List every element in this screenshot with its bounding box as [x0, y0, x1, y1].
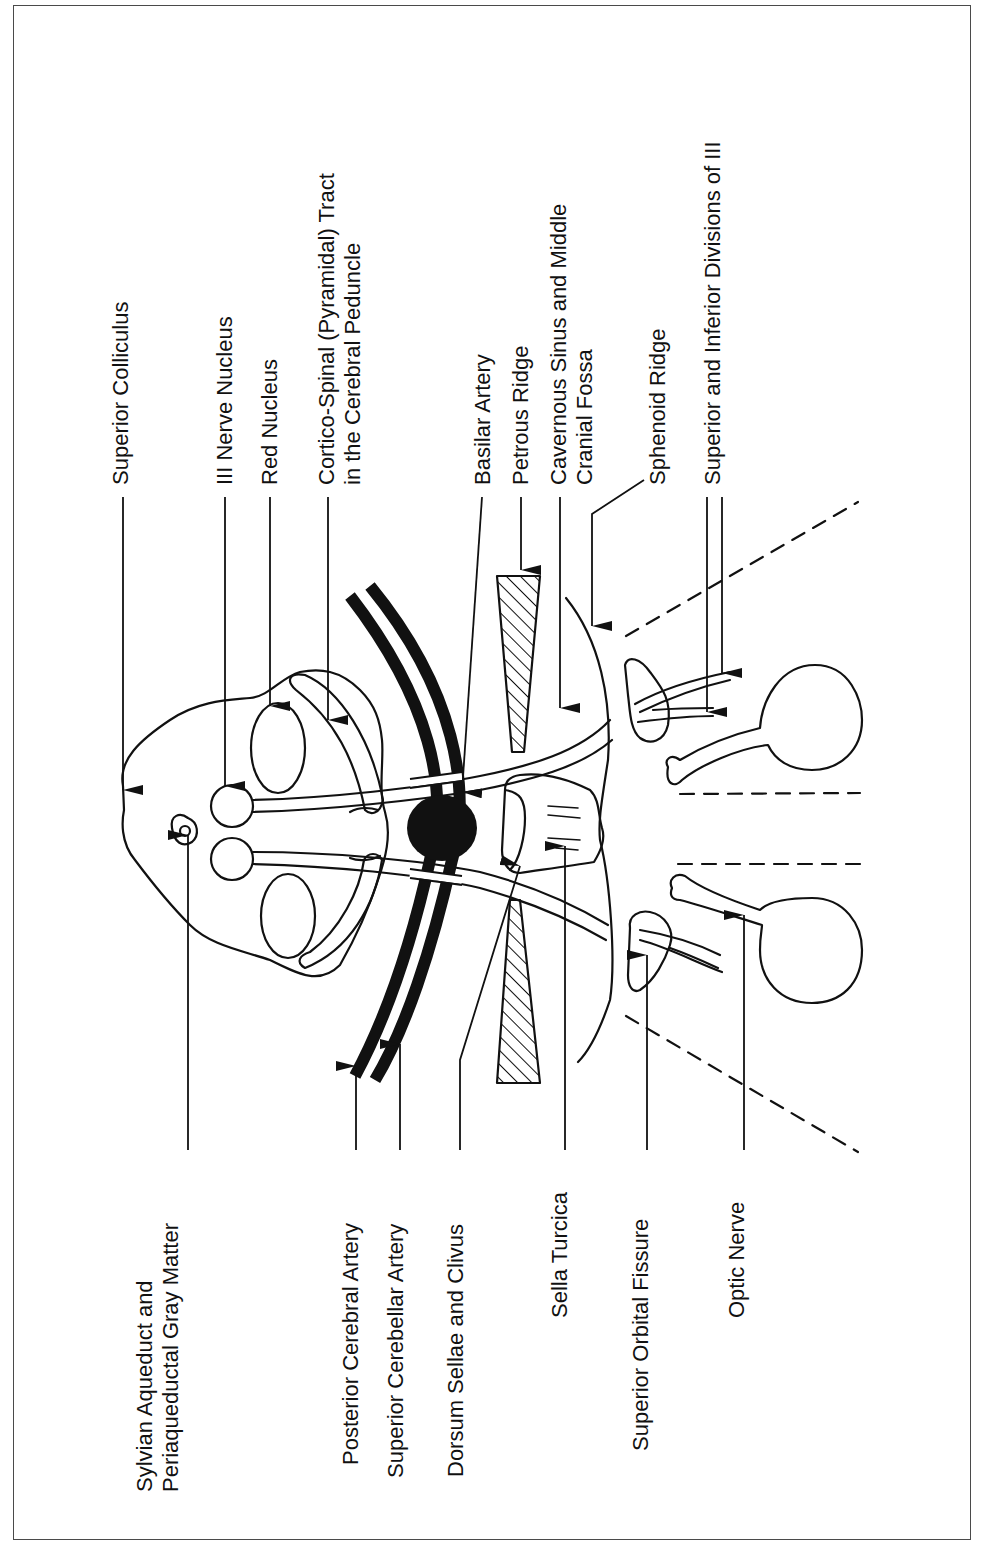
sof-lower — [628, 912, 671, 991]
basilar-artery — [407, 795, 477, 861]
midbrain-outline — [122, 670, 388, 976]
peduncle-connector — [350, 808, 380, 860]
sof-upper — [625, 659, 669, 741]
aqueduct-lumen — [180, 826, 190, 836]
label-basilar-artery: Basilar Artery — [470, 354, 496, 485]
petrous-ridge-upper — [497, 576, 540, 752]
iii-nucleus-upper — [211, 785, 253, 827]
label-superior-inferior-divisions-iii: Superior and Inferior Divisions of III — [700, 141, 726, 485]
iii-nucleus-lower — [211, 838, 253, 880]
label-sylvian-aqueduct: Sylvian Aqueduct and Periaqueductal Gray… — [132, 1223, 184, 1492]
middle-cranial-fossa-curve — [566, 598, 612, 1062]
optic-nerve-lower — [671, 875, 862, 1003]
label-petrous-ridge: Petrous Ridge — [508, 346, 534, 485]
label-dorsum-sellae-clivus: Dorsum Sellae and Clivus — [443, 1224, 469, 1477]
optic-nerve-upper — [667, 665, 862, 784]
iii-division-lower-a — [653, 708, 713, 710]
iii-division-upper-a — [635, 672, 730, 704]
label-superior-orbital-fissure: Superior Orbital Fissure — [628, 1219, 654, 1451]
label-red-nucleus: Red Nucleus — [257, 359, 283, 485]
label-optic-nerve: Optic Nerve — [724, 1202, 750, 1318]
sella-striations — [548, 806, 580, 850]
dorsum-sellae — [505, 790, 525, 870]
label-posterior-cerebral-artery: Posterior Cerebral Artery — [338, 1223, 364, 1465]
label-superior-cerebellar-artery: Superior Cerebellar Artery — [383, 1224, 409, 1478]
label-superior-colliculus: Superior Colliculus — [108, 302, 134, 485]
label-cavernous-sinus: Cavernous Sinus and Middle Cranial Fossa — [546, 204, 598, 485]
leader-sphenoid-ridge — [592, 480, 644, 626]
petrous-ridge-lower — [497, 900, 540, 1083]
iii-division-lower-b — [638, 716, 713, 722]
aqueduct — [172, 815, 197, 844]
label-iii-nerve-nucleus: III Nerve Nucleus — [212, 316, 238, 485]
sphenoid-ridge-lower-dash — [626, 1016, 858, 1152]
sphenoid-ridge-mid-dash-a — [680, 793, 860, 794]
sphenoid-ridge-upper-dash — [626, 502, 858, 636]
red-nucleus-lower — [261, 874, 315, 958]
iii-division-lower-d — [640, 940, 722, 972]
red-nucleus-upper — [251, 703, 305, 793]
label-sella-turcica: Sella Turcica — [547, 1192, 573, 1318]
label-sphenoid-ridge: Sphenoid Ridge — [645, 328, 671, 485]
label-cortico-spinal-tract: Cortico-Spinal (Pyramidal) Tract in the … — [314, 173, 366, 485]
leader-basilar-artery — [462, 497, 482, 792]
